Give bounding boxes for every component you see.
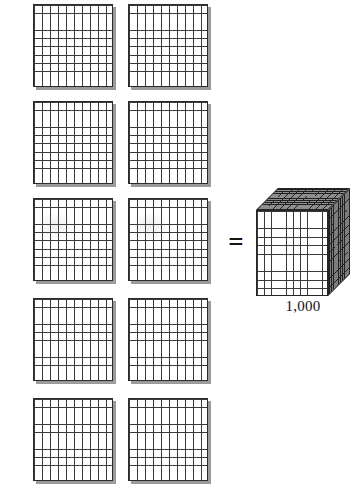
hundred-flat-3 — [33, 101, 113, 184]
thousand-cube-group: 1,000 — [256, 188, 350, 310]
hundred-flat-5 — [33, 198, 113, 281]
hundred-flat-7 — [33, 298, 113, 381]
equals-sign: = — [222, 231, 250, 253]
flat-grid-10x10 — [128, 4, 208, 87]
base-ten-blocks-diagram: = 1,000 — [0, 0, 357, 497]
flat-grid-10x10 — [128, 101, 208, 184]
thousand-cube — [256, 188, 350, 296]
cube-front-face — [256, 210, 328, 296]
hundred-flat-1 — [33, 4, 113, 87]
flat-grid-10x10 — [33, 198, 113, 281]
flat-grid-10x10 — [33, 4, 113, 87]
flat-grid-10x10 — [33, 298, 113, 381]
flat-grid-10x10 — [128, 398, 208, 481]
hundred-flat-6 — [128, 198, 208, 281]
hundred-flat-4 — [128, 101, 208, 184]
hundred-flat-2 — [128, 4, 208, 87]
hundred-flat-9 — [33, 398, 113, 481]
flat-grid-10x10 — [128, 298, 208, 381]
hundred-flat-10 — [128, 398, 208, 481]
flat-grid-10x10 — [33, 101, 113, 184]
flat-grid-10x10 — [128, 198, 208, 281]
flat-grid-10x10 — [33, 398, 113, 481]
hundred-flat-8 — [128, 298, 208, 381]
cube-value-label: 1,000 — [256, 298, 350, 315]
